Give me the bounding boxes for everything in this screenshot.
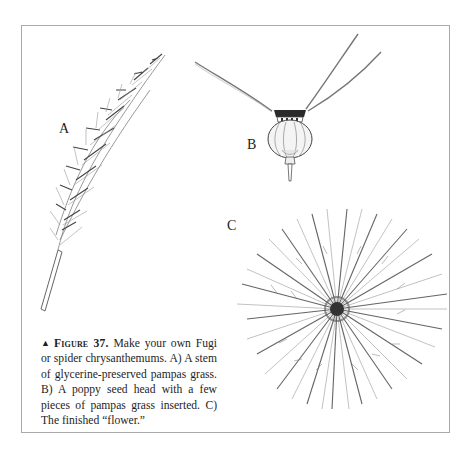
panel-label-b: B <box>247 137 256 153</box>
poppy-seed-head-illustration <box>195 34 381 181</box>
figure-number: Figure 37. <box>54 337 109 350</box>
figure-caption: ▲Figure 37. Make your own Fugi or spider… <box>41 336 217 428</box>
panel-label-a: A <box>59 121 69 137</box>
triangle-marker-icon: ▲ <box>41 338 52 348</box>
panel-label-c: C <box>227 218 236 234</box>
pampas-grass-illustration <box>41 54 165 311</box>
caption-text: Make your own Fugi or spider chrysanthem… <box>41 337 217 427</box>
finished-flower-illustration <box>237 209 447 409</box>
